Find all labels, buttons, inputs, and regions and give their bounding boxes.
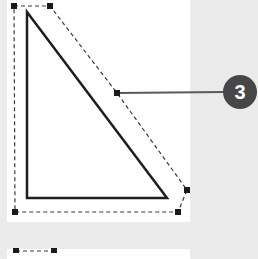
- transform-handle[interactable]: [12, 209, 18, 215]
- transform-handle[interactable]: [175, 209, 181, 215]
- transform-handle[interactable]: [11, 3, 17, 9]
- transform-handle[interactable]: [51, 248, 57, 253]
- transform-handle[interactable]: [47, 3, 53, 9]
- triangle-shape[interactable]: [27, 12, 167, 198]
- transform-handle[interactable]: [184, 187, 190, 193]
- transform-handle[interactable]: [114, 90, 120, 96]
- transform-handle[interactable]: [13, 248, 19, 253]
- callout-badge: 3: [223, 75, 257, 109]
- callout-leader-line: [117, 92, 224, 93]
- callout-number: 3: [234, 81, 245, 104]
